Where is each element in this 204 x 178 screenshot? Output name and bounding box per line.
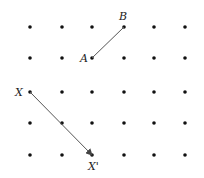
- segment-xx-prime: [30, 92, 92, 155]
- label-x: X: [14, 86, 24, 99]
- grid-dot: [152, 90, 156, 94]
- segments: [30, 27, 124, 155]
- grid-dot: [90, 90, 94, 94]
- grid-dot: [183, 153, 187, 157]
- label-x-prime: X': [87, 160, 99, 173]
- grid-dot: [28, 25, 32, 29]
- grid-dot: [152, 25, 156, 29]
- grid-dot: [60, 90, 64, 94]
- grid-dot: [183, 56, 187, 60]
- grid-dot: [90, 121, 94, 125]
- label-a: A: [79, 52, 88, 65]
- grid-dot: [152, 153, 156, 157]
- dot-grid: [28, 25, 187, 157]
- grid-dot: [122, 121, 126, 125]
- grid-dot: [90, 25, 94, 29]
- translation-diagram: A B X X': [0, 0, 204, 178]
- grid-dot: [152, 56, 156, 60]
- grid-dot: [122, 153, 126, 157]
- grid-dot: [122, 90, 126, 94]
- grid-dot: [60, 153, 64, 157]
- label-b: B: [118, 10, 127, 23]
- grid-dot: [183, 25, 187, 29]
- grid-dot: [183, 90, 187, 94]
- grid-dot: [28, 153, 32, 157]
- grid-dot: [28, 56, 32, 60]
- segment-ab: [92, 27, 124, 58]
- grid-dot: [183, 121, 187, 125]
- grid-dot: [152, 121, 156, 125]
- grid-dot: [60, 56, 64, 60]
- grid-dot: [28, 121, 32, 125]
- grid-dot: [60, 25, 64, 29]
- grid-dot: [122, 56, 126, 60]
